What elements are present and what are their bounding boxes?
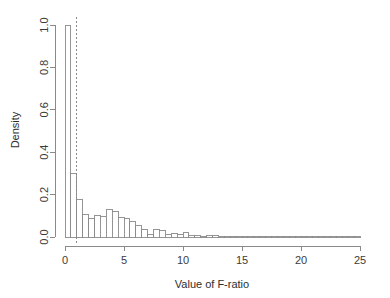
histogram-bar	[242, 237, 248, 238]
histogram-bar	[118, 218, 124, 237]
histogram-bar	[224, 237, 230, 238]
histogram-bar	[95, 216, 101, 237]
histogram-bar	[218, 236, 224, 237]
histogram-bar	[313, 237, 319, 238]
histogram-bar	[260, 237, 266, 238]
histogram-bar	[301, 237, 307, 238]
histogram-bar	[189, 235, 195, 237]
y-axis-ticks: 0.00.20.40.60.81.0	[38, 17, 55, 244]
histogram-bar	[77, 200, 83, 237]
histogram-bar	[71, 173, 77, 237]
histogram-bar	[254, 237, 260, 238]
y-tick-label: 0.4	[38, 145, 50, 160]
y-axis: 0.00.20.40.60.81.0	[38, 17, 55, 244]
x-tick-label: 20	[295, 254, 307, 266]
x-tick-label: 25	[354, 254, 366, 266]
histogram-bar	[348, 237, 354, 238]
bars-group	[65, 25, 360, 237]
histogram-bar	[354, 237, 360, 238]
y-tick-label: 0.6	[38, 102, 50, 117]
histogram-bar	[165, 234, 171, 237]
histogram-bar	[236, 237, 242, 238]
y-axis-title: Density	[9, 111, 21, 148]
x-tick-label: 15	[236, 254, 248, 266]
histogram-bar	[183, 232, 189, 237]
histogram-bar	[342, 237, 348, 238]
histogram-bar	[289, 237, 295, 238]
x-tick-label: 10	[177, 254, 189, 266]
histogram-bar	[130, 221, 136, 237]
histogram-bar	[154, 230, 160, 237]
histogram-bar	[171, 233, 177, 237]
y-tick-label: 1.0	[38, 17, 50, 32]
histogram-bar	[177, 235, 183, 237]
y-tick-label: 0.2	[38, 187, 50, 202]
histogram-bar	[148, 234, 154, 237]
histogram-bar	[106, 209, 112, 237]
x-tick-label: 0	[62, 254, 68, 266]
histogram-bar	[336, 237, 342, 238]
histogram-bar	[65, 25, 71, 237]
histogram-bar	[230, 237, 236, 238]
histogram-bar	[142, 230, 148, 237]
y-tick-label: 0.0	[38, 229, 50, 244]
histogram-bar	[277, 237, 283, 238]
histogram-bar	[307, 237, 313, 238]
histogram-bar	[195, 236, 201, 237]
histogram-bar	[266, 237, 272, 238]
plot-canvas: 0510152025 0.00.20.40.60.81.0 Value of F…	[0, 0, 390, 298]
y-tick-label: 0.8	[38, 60, 50, 75]
x-tick-label: 5	[121, 254, 127, 266]
histogram-bar	[207, 235, 213, 237]
histogram-bar	[89, 219, 95, 237]
histogram-bar	[295, 237, 301, 238]
x-axis-title: Value of F-ratio	[175, 278, 249, 290]
histogram-bar	[159, 231, 165, 237]
histogram-bar	[331, 237, 337, 238]
x-axis: 0510152025	[62, 246, 366, 266]
histogram-bar	[283, 237, 289, 238]
histogram-bar	[319, 237, 325, 238]
x-axis-ticks: 0510152025	[62, 246, 366, 266]
histogram-plot: 0510152025 0.00.20.40.60.81.0 Value of F…	[0, 0, 390, 298]
histogram-bar	[100, 217, 106, 237]
histogram-bar	[201, 236, 207, 237]
histogram-bar	[325, 237, 331, 238]
histogram-bar	[272, 237, 278, 238]
histogram-bar	[112, 212, 118, 237]
histogram-bar	[83, 215, 89, 237]
histogram-bar	[213, 236, 219, 237]
histogram-bar	[124, 219, 130, 237]
histogram-bar	[248, 237, 254, 238]
histogram-bar	[136, 225, 142, 237]
